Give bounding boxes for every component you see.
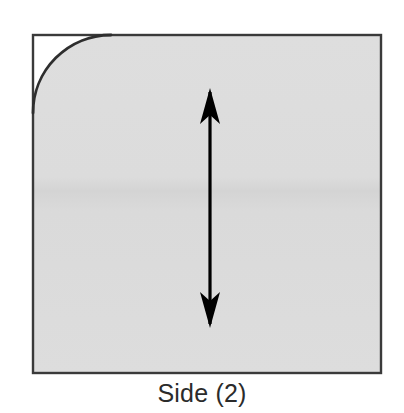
figure-root: Side (2) [0,0,404,413]
figure-canvas [0,0,404,413]
figure-caption: Side (2) [0,378,404,408]
square-fill-shape [33,35,381,373]
